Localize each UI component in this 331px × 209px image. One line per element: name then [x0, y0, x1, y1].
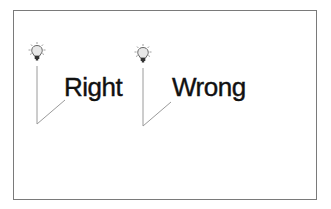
callout-label-right: Right: [64, 74, 122, 100]
callout-graphics: [0, 0, 331, 209]
callout-label-wrong: Wrong: [172, 74, 246, 100]
lightbulb-icon: [135, 44, 152, 63]
leader-line: [37, 66, 65, 124]
lightbulb-icon: [29, 42, 46, 61]
leader-line: [143, 68, 171, 126]
